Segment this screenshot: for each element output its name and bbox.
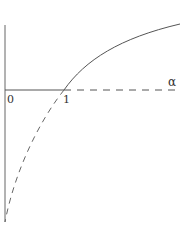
origin-label: 0 [7, 94, 14, 105]
alpha-axis-label: α [168, 76, 176, 88]
plot-canvas [0, 0, 180, 225]
curve-dashed [5, 90, 64, 222]
tick-label-one: 1 [63, 94, 70, 105]
curve-solid [64, 24, 180, 90]
